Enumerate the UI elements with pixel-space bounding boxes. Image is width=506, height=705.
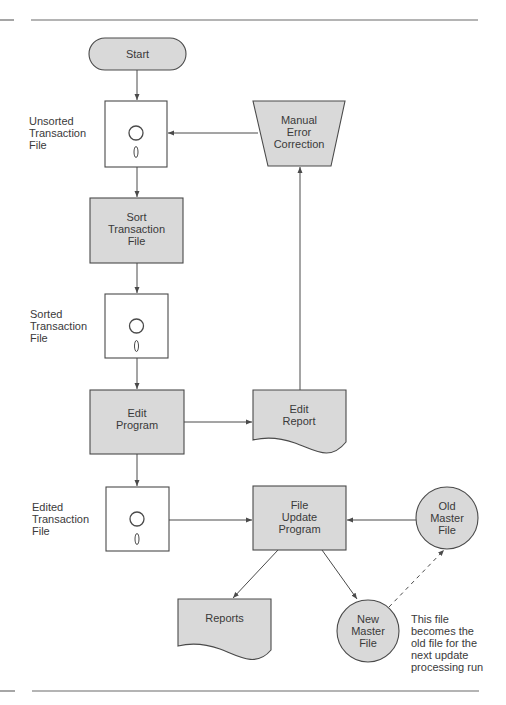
- edited-file-label-3: File: [32, 525, 50, 537]
- edited-file-label-2: Transaction: [32, 513, 89, 525]
- reports-document: Reports: [178, 599, 271, 659]
- old-master-label-2: Master: [430, 512, 464, 524]
- file-update-label-3: Program: [278, 523, 320, 535]
- annotation-line-1: This file: [411, 613, 449, 625]
- edit-report: Edit Report: [253, 390, 346, 453]
- start-terminal: Start: [89, 38, 186, 70]
- sort-label-1: Sort: [126, 211, 146, 223]
- edit-program: Edit Program: [90, 390, 184, 454]
- sort-transaction-file: Sort Transaction File: [90, 198, 183, 263]
- flowchart-canvas: Start Unsorted Transaction File Manual E…: [0, 0, 506, 705]
- edge-newmaster-oldmaster: [389, 550, 444, 607]
- annotation-line-2: becomes the: [411, 625, 474, 637]
- annotation-line-4: next update: [411, 649, 469, 661]
- edit-report-label-2: Report: [282, 415, 315, 427]
- file-update-program: File Update Program: [253, 486, 346, 550]
- new-master-label-2: Master: [351, 625, 385, 637]
- edited-transaction-file: [106, 487, 169, 551]
- file-update-label-1: File: [291, 499, 309, 511]
- sorted-transaction-file: [105, 294, 168, 358]
- start-label: Start: [126, 48, 149, 60]
- reports-label: Reports: [205, 612, 244, 624]
- manual-label-3: Correction: [274, 138, 325, 150]
- sorted-file-label-2: Transaction: [30, 320, 87, 332]
- edit-report-label-1: Edit: [290, 403, 309, 415]
- sorted-file-label-3: File: [30, 332, 48, 344]
- old-master-file: Old Master File: [416, 487, 478, 549]
- manual-label-2: Error: [287, 126, 312, 138]
- file-update-label-2: Update: [282, 511, 317, 523]
- manual-label-1: Manual: [281, 114, 317, 126]
- old-master-label-3: File: [438, 524, 456, 536]
- unsorted-file-label-1: Unsorted: [29, 115, 74, 127]
- old-master-label-1: Old: [438, 500, 455, 512]
- unsorted-file-label-3: File: [29, 139, 47, 151]
- edited-file-label-1: Edited: [32, 501, 63, 513]
- sort-label-2: Transaction: [108, 223, 165, 235]
- edit-program-label-2: Program: [116, 419, 158, 431]
- edge-update-newmaster: [322, 550, 357, 599]
- sort-label-3: File: [128, 235, 146, 247]
- new-master-file: New Master File: [337, 600, 399, 662]
- unsorted-transaction-file: [105, 101, 167, 167]
- new-master-label-1: New: [357, 613, 379, 625]
- edge-update-reports: [233, 550, 278, 598]
- new-master-label-3: File: [359, 637, 377, 649]
- unsorted-file-label-2: Transaction: [29, 127, 86, 139]
- new-master-annotation: This file becomes the old file for the n…: [411, 613, 483, 673]
- annotation-line-3: old file for the: [411, 637, 477, 649]
- edit-program-label-1: Edit: [128, 407, 147, 419]
- sorted-file-label-1: Sorted: [30, 308, 62, 320]
- annotation-line-5: processing run: [411, 661, 483, 673]
- manual-error-correction: Manual Error Correction: [253, 101, 345, 166]
